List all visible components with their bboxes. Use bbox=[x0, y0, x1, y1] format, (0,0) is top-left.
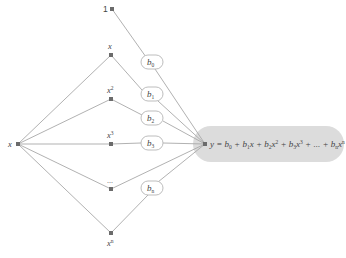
output-node bbox=[203, 142, 207, 146]
svg-text:x3: x3 bbox=[106, 130, 114, 140]
feature-node-x: x bbox=[107, 41, 113, 57]
feature-node-xn: xn bbox=[106, 231, 114, 248]
coefficient-edges bbox=[155, 69, 205, 182]
svg-text:x: x bbox=[107, 41, 112, 51]
coefficient-bn: bn bbox=[141, 181, 163, 195]
coefficient-b1: b1 bbox=[141, 87, 163, 101]
coefficient-b2: b2 bbox=[141, 111, 163, 125]
feature-node-x2: x2 bbox=[106, 85, 114, 101]
bias-node: 1 bbox=[103, 4, 114, 14]
input-node: x bbox=[7, 139, 20, 149]
svg-text:xn: xn bbox=[106, 238, 114, 248]
coefficient-b3: b3 bbox=[141, 136, 163, 150]
bias-label: 1 bbox=[103, 4, 108, 14]
coefficient-b0: b0 bbox=[141, 55, 163, 69]
svg-text:...: ... bbox=[107, 177, 113, 184]
input-label: x bbox=[7, 139, 12, 149]
input-edges bbox=[18, 55, 111, 233]
svg-text:x2: x2 bbox=[106, 85, 114, 95]
feature-node-ellipsis: ... bbox=[107, 177, 113, 191]
polynomial-regression-diagram: x 1 x x2 x3 ... xn b0 b1 b2 b3 bbox=[0, 0, 346, 258]
